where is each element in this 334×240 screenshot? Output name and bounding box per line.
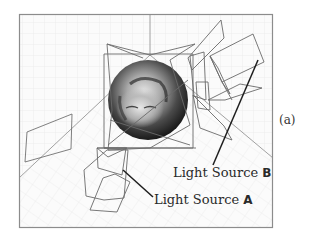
light-source-b-label: Light Source B: [173, 166, 271, 179]
light-source-a-letter: A: [243, 193, 252, 207]
panel-tag: (a): [279, 114, 296, 126]
light-source-b-letter: B: [262, 166, 271, 180]
figure-panel-a: Light Source B Light Source A (a): [0, 0, 334, 240]
textured-sphere: [108, 60, 188, 140]
light-source-b-text: Light Source: [173, 165, 262, 180]
light-source-a-label: Light Source A: [154, 193, 253, 206]
light-source-a-text: Light Source: [154, 192, 243, 207]
